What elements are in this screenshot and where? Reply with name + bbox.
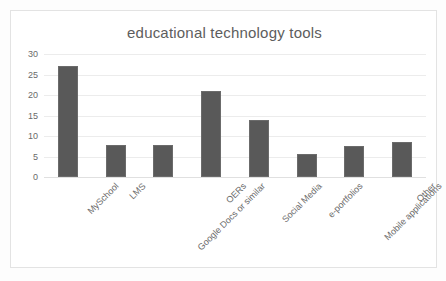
x-axis-tick-label: MySchool	[85, 181, 120, 216]
y-axis-tick-label: 25	[28, 70, 38, 80]
x-axis-tick-label: Social Media	[280, 181, 324, 225]
gridline-10	[44, 136, 426, 137]
bar[interactable]	[344, 146, 364, 177]
x-axis-labels: MySchoolLMSGoogle Docs or similarOERsSoc…	[44, 177, 426, 269]
y-axis-tick-label: 5	[33, 152, 38, 162]
y-axis-tick-label: 0	[33, 172, 38, 182]
bar[interactable]	[153, 145, 173, 177]
gridline-20	[44, 95, 426, 96]
gridline-25	[44, 75, 426, 76]
y-axis-tick-label: 20	[28, 90, 38, 100]
bar[interactable]	[106, 145, 126, 177]
bar[interactable]	[249, 120, 269, 177]
y-axis-tick-label: 15	[28, 111, 38, 121]
chart-plot-frame: educational technology tools 05101520253…	[10, 10, 437, 268]
bar[interactable]	[58, 66, 78, 177]
gridline-5	[44, 157, 426, 158]
x-axis-tick-label: e-portfolios	[326, 181, 365, 220]
bar[interactable]	[297, 154, 317, 177]
gridline-30	[44, 54, 426, 55]
y-axis-tick-label: 10	[28, 131, 38, 141]
chart-title: educational technology tools	[11, 24, 438, 41]
bar[interactable]	[392, 142, 412, 177]
bar[interactable]	[201, 91, 221, 177]
plot-area: 051015202530	[44, 54, 426, 177]
x-axis-tick-label: LMS	[127, 181, 147, 201]
y-axis-tick-label: 30	[28, 49, 38, 59]
chart-figure: educational technology tools 05101520253…	[0, 0, 446, 281]
gridline-15	[44, 116, 426, 117]
